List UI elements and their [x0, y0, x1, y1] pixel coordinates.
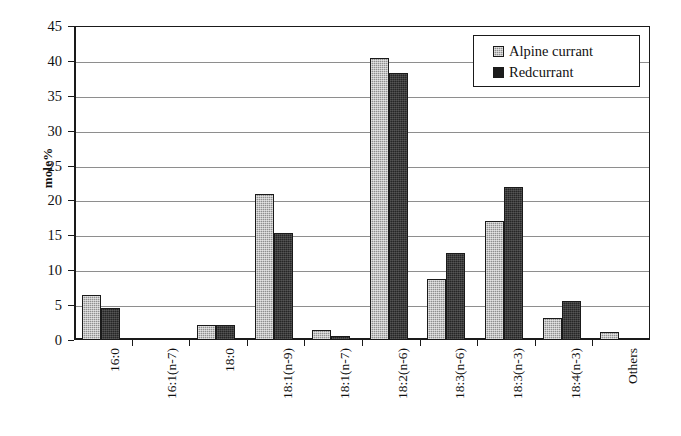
bar-group [304, 26, 362, 340]
x-axis-tick [304, 340, 305, 346]
y-axis-title: mole% [40, 128, 56, 208]
y-axis-tick-label: 40 [20, 54, 62, 69]
bar [600, 332, 619, 340]
bar-chart: mole% 051015202530354045 16:016:1(n-7)18… [0, 0, 681, 436]
bar [485, 221, 504, 340]
bar [562, 301, 581, 340]
bar [543, 318, 562, 340]
x-axis-tick-label: 16:1(n-7) [165, 348, 179, 434]
x-axis-tick [132, 340, 133, 346]
x-axis-tick [189, 340, 190, 346]
y-axis-tick-label: 5 [20, 298, 62, 313]
x-axis-tick-label: 18:1(n-9) [281, 348, 295, 434]
y-axis-tick-label: 35 [20, 89, 62, 104]
x-axis-tick-label: 18:2(n-6) [396, 348, 410, 434]
chart-legend: Alpine currant Redcurrant [473, 35, 640, 87]
bar [82, 295, 101, 340]
x-axis-tick-label: 16:0 [108, 348, 122, 434]
bar [274, 233, 293, 340]
bar [101, 308, 120, 340]
bar-group [420, 26, 478, 340]
legend-swatch-icon-redcurrant [493, 67, 504, 78]
x-axis-tick-label: 18:4(n-3) [569, 348, 583, 434]
legend-item-redcurrant: Redcurrant [493, 62, 639, 83]
bar [370, 58, 389, 340]
bar-group [247, 26, 305, 340]
bar [312, 330, 331, 340]
bar [197, 325, 216, 340]
bar-group [132, 26, 190, 340]
bar [504, 187, 523, 340]
x-axis-tick [535, 340, 536, 346]
legend-label-redcurrant: Redcurrant [509, 65, 573, 80]
x-axis-tick-label: 18:3(n-6) [453, 348, 467, 434]
y-axis-tick-label: 10 [20, 263, 62, 278]
x-axis-labels: 16:016:1(n-7)18:018:1(n-9)18:1(n-7)18:2(… [74, 348, 650, 434]
bar-group [189, 26, 247, 340]
y-axis-tick-label: 15 [20, 228, 62, 243]
bar [216, 325, 235, 340]
bar-group [74, 26, 132, 340]
bar [446, 253, 465, 340]
x-axis-ticks [74, 340, 650, 348]
x-axis-tick-label: 18:1(n-7) [338, 348, 352, 434]
bar-group [362, 26, 420, 340]
y-axis-tick-label: 0 [20, 333, 62, 348]
bar [427, 279, 446, 340]
x-axis-tick-label: 18:0 [223, 348, 237, 434]
x-axis-tick [477, 340, 478, 346]
bar [389, 73, 408, 340]
legend-item-alpine-currant: Alpine currant [493, 41, 639, 62]
legend-label-alpine-currant: Alpine currant [509, 44, 593, 59]
x-axis-tick [247, 340, 248, 346]
x-axis-tick [420, 340, 421, 346]
y-axis-tick-label: 45 [20, 19, 62, 34]
legend-swatch-icon-alpine-currant [493, 46, 504, 57]
x-axis-tick [362, 340, 363, 346]
bar [255, 194, 274, 340]
x-axis-tick [592, 340, 593, 346]
x-axis-tick-label: 18:3(n-3) [511, 348, 525, 434]
x-axis-tick-label: Others [626, 348, 640, 434]
